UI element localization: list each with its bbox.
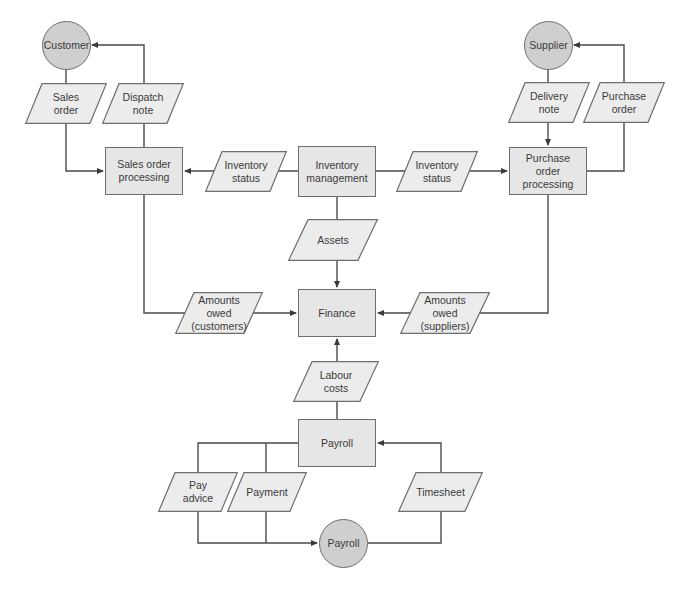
data-amounts-owed-suppliers: Amounts owed (suppliers) <box>400 292 490 334</box>
data-timesheet: Timesheet <box>398 472 483 512</box>
data-assets: Assets <box>288 219 378 261</box>
data-dispatch-note-label: Dispatch note <box>118 91 168 117</box>
data-delivery-note: Delivery note <box>508 82 590 123</box>
data-pay-advice-label: Pay advice <box>178 479 218 505</box>
entity-supplier-label: Supplier <box>529 39 568 52</box>
data-inventory-status-right-label: Inventory status <box>412 159 462 185</box>
data-sales-order: Sales order <box>25 83 107 124</box>
data-dispatch-note: Dispatch note <box>102 83 184 124</box>
process-sales-order-processing-label: Sales order processing <box>112 158 176 184</box>
data-labour-costs-label: Labour costs <box>316 369 356 395</box>
data-payment-label: Payment <box>246 486 287 499</box>
data-purchase-order-label: Purchase order <box>599 90 649 116</box>
process-payroll-label: Payroll <box>321 437 353 450</box>
data-timesheet-label: Timesheet <box>416 486 465 499</box>
entity-customer-label: Customer <box>44 39 90 52</box>
data-assets-label: Assets <box>317 234 349 247</box>
entity-payroll: Payroll <box>319 519 368 568</box>
process-purchase-order-processing-label: Purchase order processing <box>516 152 580 191</box>
process-purchase-order-processing: Purchase order processing <box>509 147 587 195</box>
data-amounts-owed-customers: Amounts owed (customers) <box>175 292 263 334</box>
data-pay-advice: Pay advice <box>158 472 238 512</box>
data-labour-costs: Labour costs <box>293 361 379 402</box>
data-purchase-order: Purchase order <box>583 82 665 123</box>
process-inventory-management: Inventory management <box>298 146 376 197</box>
data-inventory-status-left: Inventory status <box>205 151 287 192</box>
process-payroll: Payroll <box>298 419 376 467</box>
entity-payroll-label: Payroll <box>327 537 359 550</box>
data-inventory-status-left-label: Inventory status <box>221 159 271 185</box>
data-inventory-status-right: Inventory status <box>396 151 478 192</box>
process-finance-label: Finance <box>318 307 355 320</box>
data-amounts-owed-customers-label: Amounts owed (customers) <box>188 294 250 333</box>
data-payment: Payment <box>227 472 307 512</box>
data-flow-diagram: Customer Supplier Payroll Sales order pr… <box>0 0 687 591</box>
entity-supplier: Supplier <box>524 21 573 70</box>
process-sales-order-processing: Sales order processing <box>105 147 183 195</box>
process-inventory-management-label: Inventory management <box>303 159 371 185</box>
process-finance: Finance <box>298 289 376 337</box>
entity-customer: Customer <box>42 21 91 70</box>
data-sales-order-label: Sales order <box>46 91 86 117</box>
data-amounts-owed-suppliers-label: Amounts owed (suppliers) <box>417 294 473 333</box>
data-delivery-note-label: Delivery note <box>526 90 572 116</box>
